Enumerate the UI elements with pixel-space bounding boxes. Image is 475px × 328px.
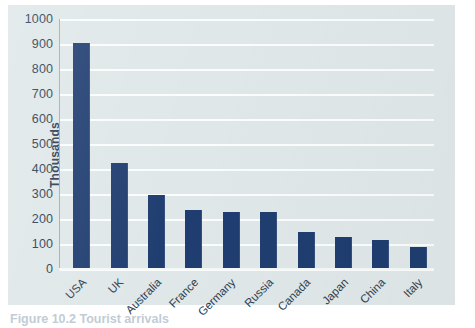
figure-caption: Figure 10.2 Tourist arrivals [10, 312, 470, 328]
gridline [60, 44, 434, 46]
gridline [60, 144, 434, 146]
x-tick-label: Italy [401, 276, 424, 299]
y-tick-label: 0 [46, 262, 53, 276]
y-tick-label: 800 [32, 62, 53, 76]
gridline [60, 19, 434, 21]
bar [298, 232, 315, 270]
x-tick-label: Canada [276, 276, 313, 313]
y-tick-label: 200 [32, 212, 53, 226]
x-tick-label: France [167, 276, 201, 310]
bar [335, 237, 352, 270]
y-tick-label: 100 [32, 237, 53, 251]
y-tick-label: 400 [32, 162, 53, 176]
y-tick-label: 900 [32, 37, 53, 51]
bar [260, 212, 277, 269]
bar [185, 210, 202, 269]
x-axis-line [59, 268, 434, 270]
y-tick-label: 1000 [25, 12, 53, 26]
x-tick-label: China [358, 276, 388, 306]
bar [111, 163, 128, 269]
y-tick-label: 500 [32, 137, 53, 151]
chart-panel: Thousands 010020030040050060070080090010… [8, 5, 455, 305]
gridline [60, 94, 434, 96]
y-tick-label: 700 [32, 87, 53, 101]
x-tick-label: USA [63, 276, 88, 301]
figure-bar-chart: Thousands 010020030040050060070080090010… [0, 0, 475, 328]
bar [148, 195, 165, 269]
bar [372, 240, 389, 270]
bar [223, 212, 240, 270]
y-tick-label: 600 [32, 112, 53, 126]
x-tick-label: UK [106, 276, 126, 296]
gridline [60, 119, 434, 121]
y-tick-label: 300 [32, 187, 53, 201]
x-tick-label: Japan [319, 276, 350, 307]
gridline [60, 69, 434, 71]
bar [73, 43, 90, 269]
plot-area: 01002003004005006007008009001000 USAUKAu… [60, 19, 434, 269]
x-tick-label: Australia [123, 276, 163, 316]
bar [410, 247, 427, 269]
x-tick-label: Russia [242, 276, 275, 309]
